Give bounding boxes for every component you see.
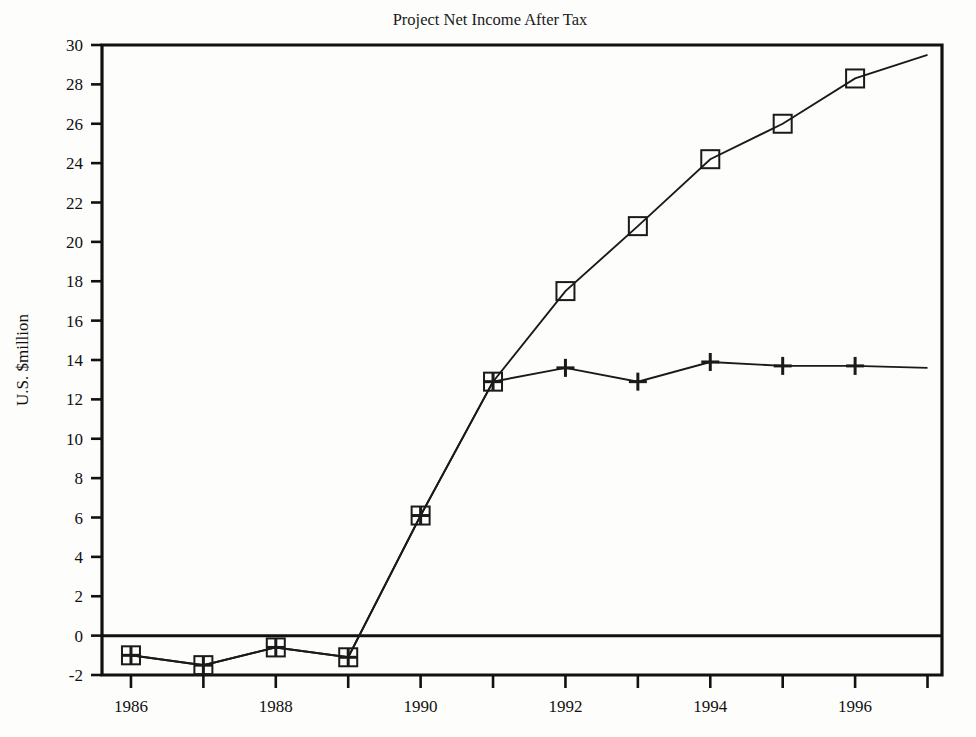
series-polyline	[131, 362, 928, 665]
y-tick-label: 28	[66, 75, 83, 94]
data-series-layer	[122, 55, 928, 674]
y-tick-label: 20	[66, 233, 83, 252]
plot-frame	[102, 45, 942, 675]
y-tick-label: 18	[66, 272, 83, 291]
y-tick-label: 8	[75, 469, 84, 488]
y-tick-label: 14	[66, 351, 84, 370]
y-tick-label: 30	[66, 36, 83, 55]
data-series-plus	[122, 353, 928, 674]
y-tick-label: 24	[66, 154, 84, 173]
y-axis-label: U.S. $million	[13, 313, 32, 406]
y-tick-label: 2	[75, 587, 84, 606]
chart-figure: Project Net Income After Tax U.S. $milli…	[0, 0, 976, 737]
x-tick-label: 1988	[259, 697, 293, 716]
y-tick-label: 12	[66, 390, 83, 409]
y-tick-label: 6	[75, 509, 84, 528]
y-tick-label: 26	[66, 115, 83, 134]
data-series-square	[122, 55, 928, 674]
y-axis-tick-labels: -2024681012141618202224262830	[66, 36, 84, 685]
y-tick-label: -2	[69, 666, 83, 685]
y-tick-label: 4	[75, 548, 84, 567]
x-axis-tick-labels: 198619881990199219941996	[114, 697, 872, 716]
x-axis-tick-marks	[131, 675, 928, 688]
chart-title: Project Net Income After Tax	[393, 10, 588, 29]
line-chart: Project Net Income After Tax U.S. $milli…	[0, 0, 976, 737]
x-tick-label: 1992	[548, 697, 582, 716]
y-tick-label: 10	[66, 430, 83, 449]
series-polyline	[131, 55, 928, 665]
y-tick-label: 0	[75, 627, 84, 646]
x-tick-label: 1994	[693, 697, 728, 716]
x-tick-label: 1986	[114, 697, 148, 716]
x-tick-label: 1990	[404, 697, 438, 716]
y-tick-label: 22	[66, 194, 83, 213]
x-tick-label: 1996	[838, 697, 872, 716]
y-tick-label: 16	[66, 312, 83, 331]
y-axis-tick-marks	[91, 45, 102, 675]
